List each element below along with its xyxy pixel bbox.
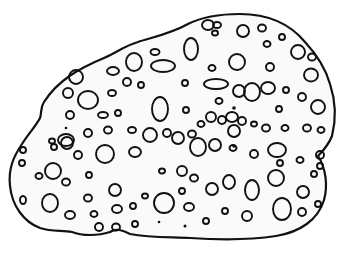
- dot: [158, 221, 161, 224]
- dot: [232, 144, 236, 148]
- dot: [184, 225, 187, 228]
- dot: [65, 127, 68, 130]
- porous-blob-drawing: [0, 0, 363, 260]
- dot: [232, 106, 236, 110]
